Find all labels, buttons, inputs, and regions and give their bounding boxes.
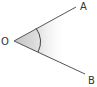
angle-diagram: O A B <box>0 0 97 87</box>
label-a: A <box>80 1 87 12</box>
label-b: B <box>88 75 95 86</box>
label-o: O <box>1 36 9 47</box>
